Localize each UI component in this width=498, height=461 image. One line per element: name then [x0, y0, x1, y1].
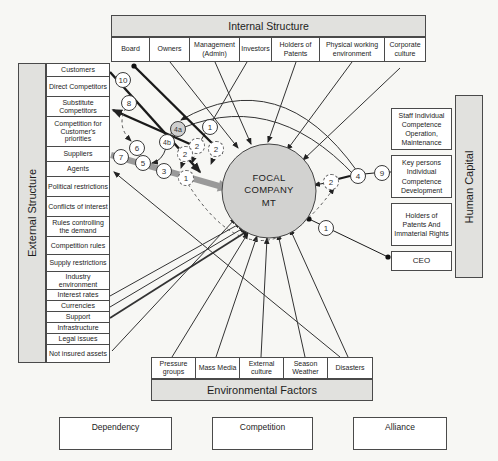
ext-item-infrastructure: Infrastructure: [46, 323, 110, 334]
alliance-dot-ceo: [385, 254, 390, 259]
ext-item-supply-restrictions: Supply restrictions: [46, 255, 110, 272]
badge-2-right: 2: [323, 174, 339, 190]
hc-box-ceo: CEO: [391, 251, 452, 271]
internal-structure-title: Internal Structure: [228, 20, 309, 32]
badge-4a: 4a: [170, 121, 186, 137]
badge-5: 5: [135, 155, 151, 171]
human-capital-band: Human Capital: [455, 95, 483, 278]
badge-3: 3: [156, 163, 172, 179]
internal-structure-cells: Board Owners Management (Admin) Investor…: [111, 37, 426, 62]
environment-lines: [172, 229, 348, 357]
cell-external-culture: External culture: [240, 357, 284, 379]
ext-item-suppliers: Suppliers: [46, 147, 110, 162]
cell-holders-patents: Holders of Patents: [272, 37, 320, 62]
external-structure-list: Customers Direct Competitors Substitute …: [46, 63, 110, 363]
line-currencies: [110, 227, 245, 307]
ext-item-industry-env: Industry environment: [46, 272, 110, 290]
ext-item-interest-rates: Interest rates: [46, 290, 110, 301]
hook-4b-to-5: [152, 148, 166, 163]
line-physical-env: [287, 62, 352, 150]
line-external-culture: [261, 238, 267, 357]
ext-item-substitute-competitors: Substitute Competitors: [46, 97, 110, 117]
ext-item-agents: Agents: [46, 162, 110, 177]
line-mass-media: [216, 236, 257, 357]
cell-pressure-groups: Pressure groups: [151, 357, 196, 379]
dashed-curve-8: [122, 108, 131, 141]
environmental-cells: Pressure groups Mass Media External cult…: [151, 357, 373, 379]
environmental-factors-title: Environmental Factors: [207, 384, 317, 396]
line-corporate-culture: [303, 68, 400, 160]
hc-box-holders-patents: Holders of Patents And Immaterial Rights: [391, 203, 452, 246]
badge-1-right: 1: [318, 220, 334, 236]
badge-1-left: 1: [178, 170, 194, 186]
cell-mass-media: Mass Media: [196, 357, 240, 379]
badge-6: 6: [129, 140, 145, 156]
badge-2b: 2: [208, 141, 224, 157]
ext-item-support: Support: [46, 312, 110, 323]
line-management: [215, 62, 251, 144]
environmental-factors-band: Environmental Factors: [151, 379, 373, 401]
hc-box-staff: Staff Individual Competence Operation, M…: [391, 108, 452, 150]
line-4-to-2: [338, 176, 350, 179]
cell-owners: Owners: [150, 37, 190, 62]
legend-dependency-label: Dependency: [60, 422, 171, 432]
line-disasters: [290, 229, 348, 357]
badge-10: 10: [115, 72, 131, 88]
ext-item-legal-issues: Legal issues: [46, 334, 110, 345]
legend-alliance-box: Alliance: [353, 417, 447, 450]
legend-dependency-box: Dependency: [59, 417, 172, 450]
relations-diagram: Internal Structure Board Owners Manageme…: [0, 0, 498, 461]
line-support: [110, 230, 249, 318]
legend-competition-label: Competition: [213, 422, 312, 432]
internal-structure-header: Internal Structure: [111, 15, 426, 37]
hc-box-key-persons: Key persons Individual Competence Develo…: [391, 155, 452, 198]
badge-7: 7: [113, 149, 129, 165]
ext-item-competition-rules: Competition rules: [46, 237, 110, 255]
badge-9-right: 9: [374, 165, 390, 181]
ext-item-not-insured: Not insured assets: [46, 345, 110, 363]
legend-alliance-label: Alliance: [354, 422, 446, 432]
cell-management: Management (Admin): [190, 37, 240, 62]
human-capital-title: Human Capital: [463, 150, 475, 223]
external-structure-band: External Structure: [18, 63, 46, 363]
cell-board: Board: [111, 37, 150, 62]
ext-item-competition-priorities: Competition for Customer's priorities: [46, 117, 110, 147]
ext-item-political-restrictions: Political restrictions: [46, 177, 110, 197]
cell-season-weather: Season Weather: [284, 357, 328, 379]
line-holders-patents: [268, 62, 296, 142]
badge-1-top: 1: [202, 119, 218, 135]
cell-investors: Investors: [240, 37, 272, 62]
badge-4b: 4b: [159, 134, 175, 150]
alliance-dot-board: [131, 63, 136, 68]
ext-item-rules-demand: Rules controlling the demand: [46, 217, 110, 237]
external-structure-title: External Structure: [26, 169, 38, 257]
badge-8: 8: [121, 95, 137, 111]
badge-2c: 2: [177, 146, 193, 162]
ext-item-customers: Customers: [46, 63, 110, 77]
legend-competition-box: Competition: [212, 417, 313, 450]
badge-4-right: 4: [350, 168, 366, 184]
ext-item-conflicts: Conflicts of interest: [46, 197, 110, 217]
ext-item-direct-competitors: Direct Competitors: [46, 77, 110, 97]
cell-corporate-culture: Corporate culture: [385, 37, 426, 62]
cell-physical-env: Physical working environment: [320, 37, 385, 62]
focal-company-label: FOCAL COMPANY MT: [237, 172, 301, 209]
line-to-substitute-competitors: [113, 110, 199, 148]
ext-item-currencies: Currencies: [46, 301, 110, 312]
cell-disasters: Disasters: [328, 357, 373, 379]
